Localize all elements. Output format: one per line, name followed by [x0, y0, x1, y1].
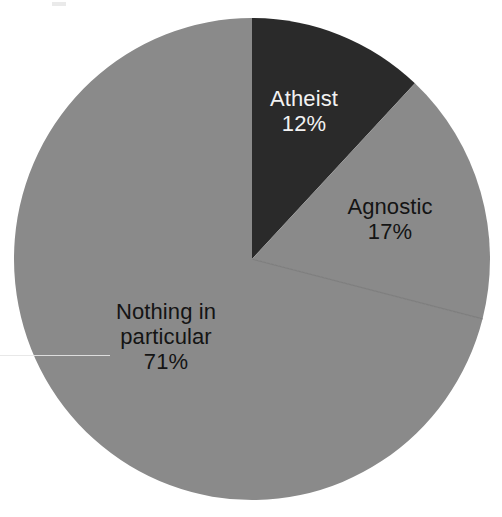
pie-chart-figure: Atheist 12% Agnostic 17% Nothing in part…: [0, 0, 502, 517]
pie-chart-canvas: [0, 0, 502, 517]
